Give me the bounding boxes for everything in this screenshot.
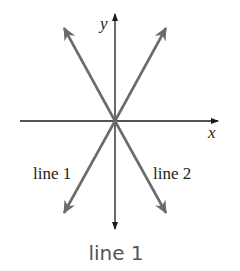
line-1-lower — [64, 121, 115, 213]
y-axis-label: y — [98, 14, 108, 33]
x-axis-label: x — [207, 123, 216, 142]
line-2-label: line 2 — [153, 164, 191, 183]
line-2-upper — [64, 28, 115, 121]
caption: line 1 — [0, 241, 232, 265]
line-1-label: line 1 — [33, 164, 71, 183]
line-1-upper — [115, 28, 166, 121]
coordinate-diagram: y x line 1 line 2 — [0, 0, 240, 271]
